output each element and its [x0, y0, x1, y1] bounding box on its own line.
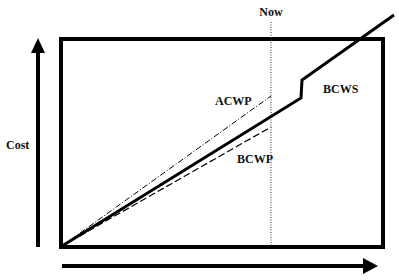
now-label: Now — [259, 5, 283, 19]
acwp-line — [62, 96, 271, 246]
x-axis-arrow — [62, 258, 378, 274]
y-axis-label: Cost — [6, 138, 29, 152]
bcws-line — [62, 15, 394, 246]
acwp-label: ACWP — [215, 94, 252, 108]
bcws-label: BCWS — [323, 82, 359, 96]
y-axis-arrow — [31, 38, 45, 247]
earned-value-diagram: Now Cost ACWP BCWS BCWP — [0, 0, 399, 280]
bcwp-label: BCWP — [237, 152, 273, 166]
